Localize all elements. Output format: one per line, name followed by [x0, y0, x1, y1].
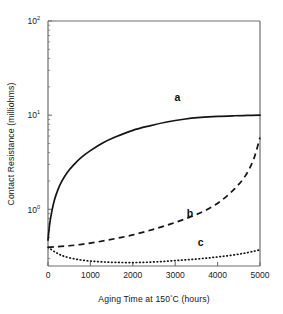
curve-c	[48, 247, 260, 262]
y-axis-tick-labels: 100101102	[27, 15, 40, 214]
curve-b	[48, 137, 260, 247]
x-axis-title: Aging Time at 150°C (hours)	[98, 294, 209, 304]
svg-text:0: 0	[46, 270, 51, 280]
x-axis-tick-labels: 010002000300040005000	[46, 270, 270, 280]
svg-text:100: 100	[27, 204, 40, 215]
svg-text:102: 102	[27, 15, 40, 26]
curve-a	[48, 115, 260, 240]
svg-text:2000: 2000	[123, 270, 142, 280]
svg-text:4000: 4000	[208, 270, 227, 280]
series-label-c: c	[198, 236, 204, 248]
series-label-a: a	[174, 91, 180, 103]
chart-figure: 100101102 010002000300040005000 abc Agin…	[0, 0, 283, 314]
svg-text:3000: 3000	[166, 270, 185, 280]
y-axis-title: Contact Resistance (milliohms)	[6, 83, 16, 206]
series-inline-labels: abc	[174, 91, 203, 248]
svg-text:1000: 1000	[81, 270, 100, 280]
svg-text:101: 101	[27, 109, 40, 120]
svg-text:5000: 5000	[251, 270, 270, 280]
semilog-line-chart: 100101102 010002000300040005000 abc Agin…	[0, 0, 283, 314]
series-label-b: b	[187, 207, 193, 219]
